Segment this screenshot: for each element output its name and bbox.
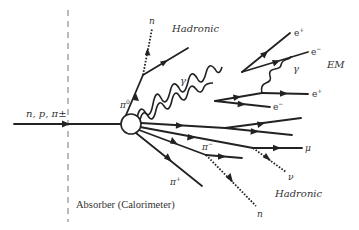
arrow-icon xyxy=(251,128,260,135)
arrow-icon xyxy=(187,134,196,141)
arrow-icon xyxy=(272,60,280,67)
arrow-icon xyxy=(160,60,168,67)
arrow-icon xyxy=(226,173,233,183)
e-minus-2-label: e− xyxy=(273,100,283,112)
interaction-vertex xyxy=(121,114,141,134)
hadronic-bottom-label: Hadronic xyxy=(274,188,323,199)
muon-label: μ xyxy=(305,143,311,153)
arrow-icon xyxy=(263,153,271,161)
arrow-icon xyxy=(218,153,226,160)
arrow-icon xyxy=(238,101,247,108)
gamma-secondary-label: γ xyxy=(293,63,299,74)
e-plus-2-label: e+ xyxy=(312,87,322,99)
e-minus-1-label: e− xyxy=(311,45,321,57)
arrow-icon xyxy=(280,90,288,97)
incident-particle-label: n, p, π± xyxy=(26,108,67,119)
arrow-icon xyxy=(170,137,178,145)
neutron-bottom-label: n xyxy=(257,209,263,219)
nu-label: ν xyxy=(288,172,294,182)
arrow-icon xyxy=(145,48,151,56)
em-label: EM xyxy=(326,59,345,70)
arrow-icon xyxy=(233,95,241,102)
hadronic-top-label: Hadronic xyxy=(171,23,220,34)
arrow-icon xyxy=(273,145,281,151)
arrow-icon xyxy=(164,153,172,162)
neutron-top-label: n xyxy=(149,16,155,26)
arrow-icon xyxy=(62,121,70,128)
gamma-upper-line xyxy=(137,66,222,118)
shower-diagram: n, p, π± π0 n Hadronic γ e+ e− EM e+ γ e… xyxy=(0,0,359,230)
e-plus-1-label: e+ xyxy=(294,26,304,38)
arrow-icon xyxy=(176,122,184,129)
absorber-label: Absorber (Calorimeter) xyxy=(76,199,175,211)
pi-plus-label: π+ xyxy=(169,175,181,187)
gamma-main-label: γ xyxy=(180,75,186,86)
pi-minus-label: π− xyxy=(201,140,213,152)
gamma-lower-line xyxy=(140,83,213,120)
